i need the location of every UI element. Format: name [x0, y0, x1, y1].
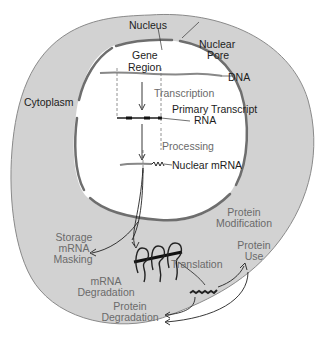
cytoplasm-label: Cytoplasm: [24, 97, 74, 108]
protein-degradation-label-2: Degradation: [100, 312, 160, 323]
nuclear-mrna-label: Nuclear mRNA: [172, 160, 242, 171]
translation-label: Translation: [171, 259, 223, 270]
protein-modification-label-2: Modification: [214, 218, 274, 229]
mrna-degradation-label-2: Degradation: [76, 287, 136, 298]
nuclear-pore-label-2: Pore: [207, 50, 229, 61]
protein-use-label-2: Use: [232, 251, 276, 262]
dna-label: DNA: [228, 72, 250, 83]
storage-label-3: Masking: [52, 254, 94, 265]
nucleus-label: Nucleus: [129, 20, 167, 31]
transcription-label: Transcription: [154, 88, 214, 99]
cell-illustration: [0, 0, 318, 339]
gene-expression-diagram: Nucleus Nuclear Pore Cytoplasm Gene Regi…: [0, 0, 318, 339]
gene-region-label-2: Region: [128, 62, 161, 73]
processing-label: Processing: [162, 141, 214, 152]
gene-region-label-1: Gene: [132, 50, 158, 61]
rna-label: RNA: [194, 115, 216, 126]
